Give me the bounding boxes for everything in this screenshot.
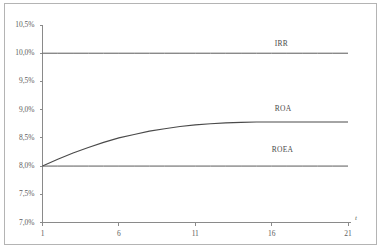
series-label-irr: IRR: [275, 39, 288, 48]
series-group: [43, 53, 349, 166]
axes-group: [43, 25, 352, 223]
y-tick-label: 10,0%: [5, 48, 35, 57]
y-tick-label: 7,0%: [5, 218, 35, 227]
series-line-roa: [43, 122, 349, 166]
x-tick-label: 16: [261, 229, 283, 238]
x-tick-label: 6: [108, 229, 130, 238]
x-tick-label: 11: [184, 229, 206, 238]
y-tick-label: 9,0%: [5, 105, 35, 114]
x-axis-title: t: [355, 214, 357, 222]
chart-figure: 7,0%7,5%8,0%8,5%9,0%9,5%10,0%10,5% 16111…: [0, 0, 382, 250]
plot-area: [0, 0, 382, 250]
y-tick-label: 10,5%: [5, 20, 35, 29]
x-tick-label: 1: [32, 229, 54, 238]
y-tick-label: 8,0%: [5, 161, 35, 170]
x-tick-label: 21: [337, 229, 359, 238]
y-tick-label: 7,5%: [5, 189, 35, 198]
y-tick-label: 9,5%: [5, 76, 35, 85]
series-label-roea: ROEA: [272, 145, 294, 154]
y-tick-label: 8,5%: [5, 133, 35, 142]
series-label-roa: ROA: [275, 104, 292, 113]
